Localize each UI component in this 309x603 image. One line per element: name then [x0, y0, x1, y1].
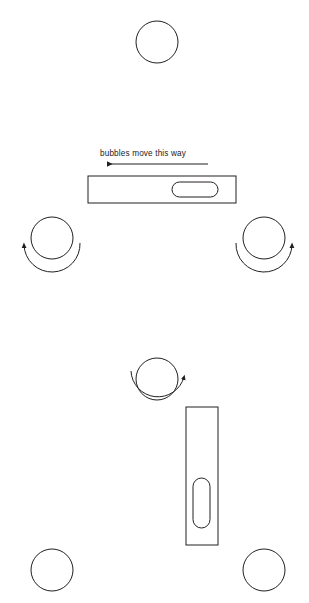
horizontal-level-vial	[172, 182, 218, 197]
horizontal-spirit-level	[88, 176, 236, 203]
vertical-spirit-level	[186, 407, 218, 545]
vertical-level-vial	[193, 478, 210, 528]
circle-top	[136, 21, 178, 63]
circle-center-lower	[136, 358, 178, 400]
circle-mid-left	[31, 217, 73, 259]
rotation-arrow-cw-right	[236, 243, 292, 272]
bubbles-move-this-way-label: bubbles move this way	[100, 149, 186, 158]
rotation-arrow-ccw-left	[24, 243, 80, 272]
rotation-arrow-cw-center	[131, 371, 184, 397]
diagram-canvas: bubbles move this way	[0, 0, 309, 603]
circle-bottom-right	[243, 549, 285, 591]
diagram-graphics	[0, 0, 309, 603]
circle-mid-right	[243, 217, 285, 259]
circle-bottom-left	[31, 549, 73, 591]
